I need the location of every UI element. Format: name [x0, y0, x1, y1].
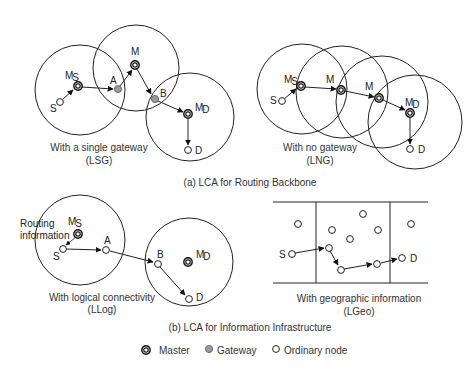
master-node-icon — [406, 109, 414, 117]
ordinary-node-icon — [338, 267, 345, 274]
label-md: MD — [196, 249, 211, 262]
ordinary-node-icon — [399, 255, 406, 262]
route-arrow — [284, 89, 296, 99]
ordinary-node-icon — [329, 227, 336, 234]
route-arrow — [137, 69, 151, 94]
legend-ordinary-label: Ordinary node — [284, 345, 348, 356]
label-md: MD — [195, 102, 210, 115]
label-ms: MS — [65, 70, 79, 83]
label-d: D — [418, 144, 425, 155]
legend-master-label: Master — [159, 345, 190, 356]
route-arrow — [160, 267, 185, 295]
route-arrow — [381, 259, 397, 263]
ordinary-node-icon — [326, 245, 333, 252]
master-node-icon — [131, 61, 139, 69]
ordinary-node-icon — [185, 147, 192, 154]
label-s: S — [279, 249, 286, 260]
ordinary-node-icon — [57, 99, 64, 106]
legend-gateway-label: Gateway — [217, 345, 256, 356]
section-title-b: (b) LCA for Information Infrastructure — [169, 322, 332, 333]
ordinary-node-icon — [360, 211, 367, 218]
ordinary-node-icon — [289, 251, 296, 258]
route-arrow — [295, 248, 324, 253]
gateway-node-icon — [114, 85, 121, 92]
route-arrow — [344, 264, 372, 269]
route-arrow — [62, 90, 73, 100]
legend: Master Gateway Ordinary node — [142, 345, 348, 356]
route-arrow — [110, 251, 153, 262]
caption-lgeo-line1: With geographic information — [297, 293, 422, 304]
label-d: D — [195, 145, 202, 156]
label-d: D — [410, 253, 417, 264]
route-arrow — [158, 101, 183, 112]
gateway-legend-icon — [205, 345, 212, 352]
label-s: S — [270, 95, 277, 106]
label-b: B — [160, 88, 167, 99]
label-d: D — [196, 292, 203, 303]
label-s: S — [53, 251, 60, 262]
ordinary-node-icon — [407, 146, 414, 153]
caption-lng-line1: With no gateway — [283, 142, 357, 153]
master-node-icon — [184, 110, 192, 118]
master-node-icon — [297, 82, 305, 90]
route-arrow — [330, 251, 338, 265]
label-md: MD — [405, 97, 420, 110]
master-node-icon — [74, 82, 82, 90]
caption-llog-line2: (LLog) — [88, 304, 117, 315]
ordinary-node-icon — [408, 221, 415, 228]
ordinary-node-icon — [103, 247, 110, 254]
master-legend-icon — [142, 346, 150, 354]
annotation-routing-info-line1: Routing — [20, 218, 54, 229]
label-a: A — [104, 235, 111, 246]
master-node-icon — [375, 94, 383, 102]
section-title-a: (a) LCA for Routing Backbone — [184, 177, 317, 188]
gateway-node-icon — [151, 95, 158, 102]
caption-lsg-line2: (LSG) — [86, 155, 113, 166]
label-m: M — [365, 81, 373, 92]
ordinary-node-icon — [347, 236, 354, 243]
annotation-routing-info-line2: information — [20, 230, 69, 241]
ordinary-node-icon — [375, 227, 382, 234]
ordinary-legend-icon — [273, 346, 280, 353]
route-arrow — [66, 249, 101, 250]
caption-lng-line2: (LNG) — [306, 155, 333, 166]
lca-diagram: MS S A M B MD D With a single gateway (L… — [0, 0, 472, 373]
label-ms: MS — [284, 74, 298, 87]
master-node-icon — [184, 258, 192, 266]
master-node-icon — [337, 86, 345, 94]
caption-lsg-line1: With a single gateway — [50, 142, 147, 153]
route-arrow — [305, 87, 336, 89]
caption-llog-line1: With logical connectivity — [49, 292, 155, 303]
ordinary-node-icon — [155, 261, 162, 268]
ordinary-node-icon — [295, 221, 302, 228]
label-m: M — [326, 74, 334, 85]
ordinary-node-icon — [374, 261, 381, 268]
label-ms: MS — [68, 216, 82, 229]
ordinary-node-icon — [60, 246, 67, 253]
label-b: B — [157, 249, 164, 260]
caption-lgeo-line2: (LGeo) — [343, 306, 374, 317]
label-a: A — [110, 75, 117, 86]
range-circle — [368, 75, 462, 169]
master-node-icon — [74, 230, 82, 238]
ordinary-node-icon — [279, 98, 286, 105]
label-s: S — [50, 103, 57, 114]
ordinary-node-icon — [186, 296, 193, 303]
label-m: M — [131, 46, 139, 57]
